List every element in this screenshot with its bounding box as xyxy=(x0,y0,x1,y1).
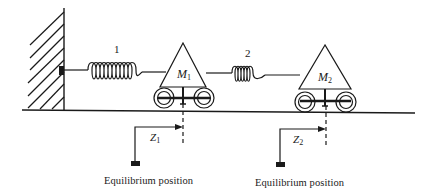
equilibrium-label-2: Equilibrium position xyxy=(255,178,344,189)
mass-2-label: M2 xyxy=(318,71,332,85)
mass-1 xyxy=(154,43,232,108)
diagram-svg xyxy=(0,0,427,190)
displacement-arrow-1 xyxy=(131,124,183,166)
fixed-wall xyxy=(28,8,64,110)
ground-line xyxy=(22,110,415,113)
mass-1-label: M1 xyxy=(177,68,191,82)
spring-mass-diagram: 1 2 M1 M2 Z1 Z2 Equilibrium position Equ… xyxy=(0,0,427,190)
spring-1 xyxy=(64,63,166,80)
z2-label: Z2 xyxy=(293,134,303,147)
spring-1-label: 1 xyxy=(114,44,120,55)
z1-label: Z1 xyxy=(150,132,160,145)
spring-2 xyxy=(232,66,300,81)
equilibrium-label-1: Equilibrium position xyxy=(104,176,193,187)
spring-2-label: 2 xyxy=(245,48,251,59)
